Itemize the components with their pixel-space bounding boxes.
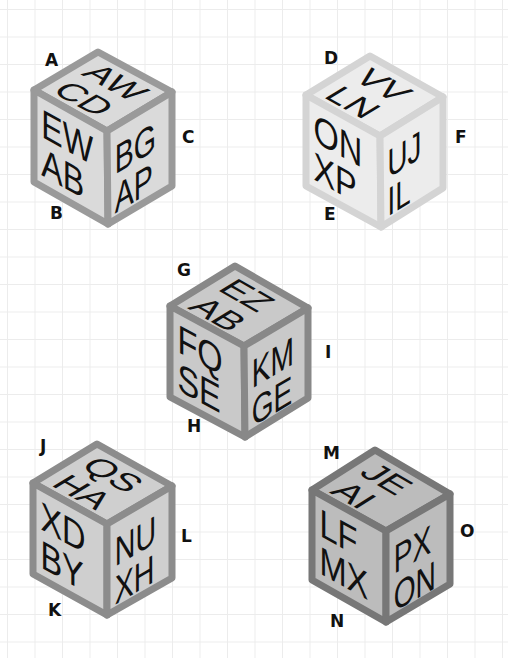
vertex-label-o: O (460, 521, 474, 541)
vertex-label-c: C (182, 127, 194, 147)
vertex-label-m: M (323, 443, 340, 463)
vertex-label-k: K (48, 600, 62, 620)
vertex-label-d: D (324, 48, 338, 68)
cube-ghi: EZ AB FQ SE KM GE G H I (170, 260, 331, 437)
cube-def: VV LN ON XP UJ IL D E F (306, 48, 467, 227)
cube-mno: JE AI LF MX PX ON M N O (312, 443, 474, 631)
cube-jkl: QS HA XD BY NU XH J K L (33, 436, 192, 620)
vertex-label-g: G (177, 260, 191, 280)
cubes-diagram: AW CD EW AB BG AP A B C VV LN ON XP (0, 0, 508, 658)
cube-abc: AW CD EW AB BG AP A B C (34, 50, 194, 224)
vertex-label-e: E (324, 204, 336, 224)
vertex-label-h: H (187, 416, 201, 436)
vertex-label-a: A (45, 50, 59, 70)
vertex-label-n: N (330, 611, 344, 631)
vertex-label-b: B (50, 203, 63, 223)
vertex-label-j: J (39, 436, 46, 456)
vertex-label-f: F (455, 127, 467, 147)
vertex-label-l: L (181, 526, 192, 546)
vertex-label-i: I (325, 342, 331, 362)
grid-background: AW CD EW AB BG AP A B C VV LN ON XP (0, 0, 508, 658)
